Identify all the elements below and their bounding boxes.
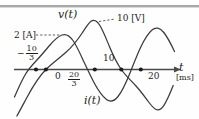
fraction-denominator: 3: [26, 53, 38, 62]
tick-label-zero: 0: [55, 72, 61, 81]
tick-dot-neg-ten-thirds: [34, 67, 38, 71]
axis-label-t: t: [179, 62, 183, 73]
label-v-of-t: v(t): [58, 9, 77, 20]
tick-label-ten: 10: [103, 54, 114, 63]
fraction-numerator: 20: [68, 71, 80, 79]
tick-label-twenty-thirds: 20 3: [68, 71, 80, 89]
tick-dot-twenty: [139, 67, 143, 71]
label-ten-volts: 10 [V]: [117, 14, 145, 23]
tick-dot-ten: [93, 67, 97, 71]
leader-dash-ten-volts: [99, 19, 115, 22]
fraction-ten-thirds: 10 3: [26, 45, 38, 63]
tick-label-neg-ten-thirds: − 10 3: [17, 45, 38, 63]
label-i-of-t: i(t): [84, 95, 101, 106]
minus-sign: −: [17, 49, 25, 58]
fraction-numerator: 10: [26, 45, 38, 53]
fraction-twenty-thirds: 20 3: [68, 71, 80, 89]
sinusoid-figure: v(t) 10 [V] 2 [A] i(t) t [ms] 0 10 20 − …: [0, 0, 199, 119]
label-two-amps: 2 [A]: [14, 31, 36, 40]
curve-i-of-t: [15, 28, 175, 101]
fraction-denominator: 3: [68, 79, 80, 88]
axis-unit-ms: [ms]: [176, 74, 194, 82]
tick-dot-zero: [44, 67, 48, 71]
tick-dot-twenty-thirds-right: [119, 67, 123, 71]
tick-label-twenty: 20: [148, 72, 159, 81]
